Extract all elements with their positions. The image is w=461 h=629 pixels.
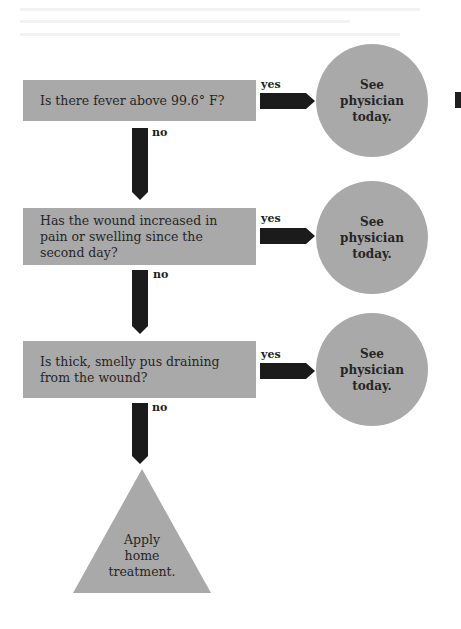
cropped-heading-glyph	[455, 92, 461, 108]
outcome-home-treatment: Apply home treatment.	[73, 532, 211, 580]
yes-label: yes	[261, 213, 281, 225]
decision-box-fever: Is there fever above 99.6° F?	[23, 80, 256, 121]
decision-question: Is thick, smelly pus draining from the w…	[40, 354, 246, 386]
page-show-through	[20, 20, 350, 23]
yes-label: yes	[261, 349, 281, 361]
yes-arrow-icon	[260, 228, 315, 244]
outcome-see-physician: See physician today.	[316, 181, 428, 294]
decision-question: Has the wound increased in pain or swell…	[40, 213, 246, 261]
decision-box-pain-swelling: Has the wound increased in pain or swell…	[23, 208, 256, 265]
decision-box-pus-draining: Is thick, smelly pus draining from the w…	[23, 341, 256, 398]
outcome-see-physician: See physician today.	[316, 44, 428, 157]
yes-arrow-icon	[260, 93, 315, 109]
yes-label: yes	[261, 79, 281, 91]
no-arrow-icon	[132, 403, 148, 464]
yes-arrow-icon	[260, 363, 315, 379]
no-arrow-icon	[132, 128, 148, 200]
no-arrow-icon	[132, 270, 148, 334]
no-label: no	[153, 269, 168, 281]
no-label: no	[152, 127, 167, 139]
decision-question: Is there fever above 99.6° F?	[40, 93, 224, 109]
page-show-through	[20, 8, 420, 11]
page-show-through	[20, 33, 400, 36]
no-label: no	[152, 402, 167, 414]
outcome-see-physician: See physician today.	[316, 313, 428, 426]
